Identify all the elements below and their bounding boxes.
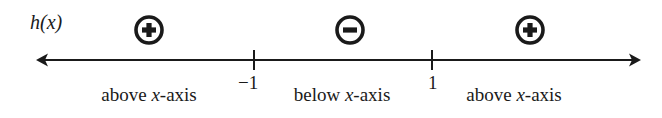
interval-text: -axis bbox=[525, 84, 562, 105]
interval-label-left: above x-axis bbox=[101, 84, 197, 106]
interval-var: x bbox=[516, 84, 524, 105]
interval-var: x bbox=[345, 84, 353, 105]
minus-circle-icon bbox=[337, 17, 363, 43]
interval-var: x bbox=[151, 84, 159, 105]
interval-text: -axis bbox=[353, 84, 390, 105]
sign-chart: h(x) −1 1 above x-axis below x-axis abov… bbox=[0, 0, 662, 118]
interval-label-middle: below x-axis bbox=[294, 84, 391, 106]
function-label: h(x) bbox=[30, 11, 62, 34]
tick-label-neg-one: −1 bbox=[238, 72, 258, 94]
interval-text: below bbox=[294, 84, 345, 105]
interval-label-right: above x-axis bbox=[466, 84, 562, 106]
plus-circle-icon bbox=[517, 17, 543, 43]
interval-text: above bbox=[101, 84, 151, 105]
plus-circle-icon bbox=[136, 17, 162, 43]
interval-text: above bbox=[466, 84, 516, 105]
tick-label-one: 1 bbox=[428, 72, 438, 94]
interval-text: -axis bbox=[160, 84, 197, 105]
